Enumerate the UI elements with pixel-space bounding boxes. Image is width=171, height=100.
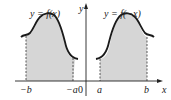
reflection-diagram: y = f(x) y = f(−x) y x 0 −b −a a b: [0, 0, 171, 100]
x-axis-arrow-icon: [157, 79, 163, 83]
left-shaded-area: [26, 13, 75, 81]
y-axis-label: y: [78, 3, 84, 14]
left-curve-label: y = f(x): [29, 8, 61, 20]
tick-label-neg-a: −a: [66, 84, 78, 95]
tick-label-b: b: [144, 84, 149, 95]
y-axis-arrow-icon: [84, 3, 88, 9]
tick-label-a: a: [97, 84, 102, 95]
tick-label-neg-b: −b: [20, 84, 32, 95]
origin-label: 0: [78, 84, 83, 95]
right-curve-label: y = f(−x): [103, 8, 141, 20]
x-axis-label: x: [161, 84, 167, 95]
